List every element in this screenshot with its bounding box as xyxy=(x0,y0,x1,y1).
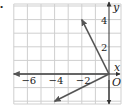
x-tick-label: −6 xyxy=(21,75,36,86)
origin-label: O xyxy=(112,76,121,89)
x-tick-label: −2 xyxy=(76,75,91,86)
y-axis-label: y xyxy=(112,1,120,14)
x-tick-label: −4 xyxy=(49,75,64,86)
x-axis-label: x xyxy=(114,61,121,74)
coordinate-diagram: • x y O −6−4−224 xyxy=(0,0,122,106)
problem-bullet: • xyxy=(0,2,3,12)
y-tick-label: 2 xyxy=(101,42,107,53)
y-tick-label: 4 xyxy=(101,15,107,26)
